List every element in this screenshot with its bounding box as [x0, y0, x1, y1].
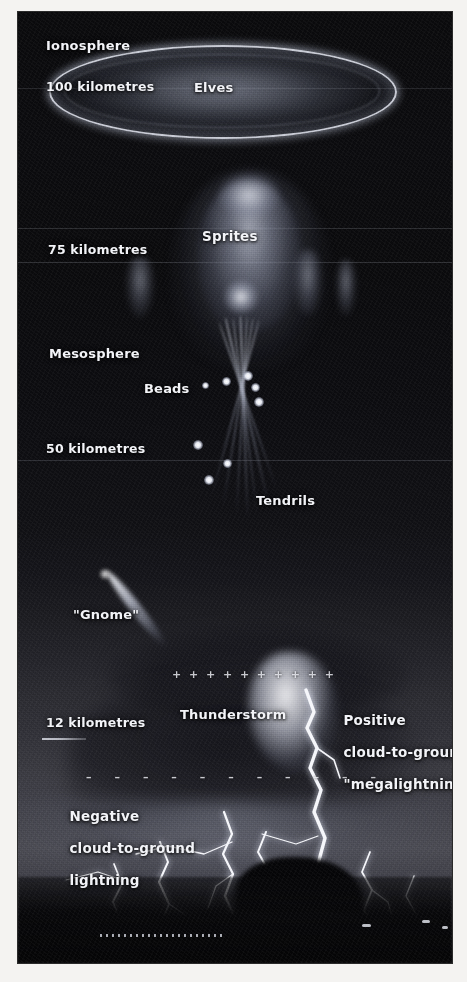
- film-grain-overlay-2: [18, 12, 452, 963]
- diagram-photo: ++++++++++ ––––––––––– Ionosphere 100 ki…: [18, 12, 452, 963]
- figure-page: ++++++++++ ––––––––––– Ionosphere 100 ki…: [0, 0, 467, 982]
